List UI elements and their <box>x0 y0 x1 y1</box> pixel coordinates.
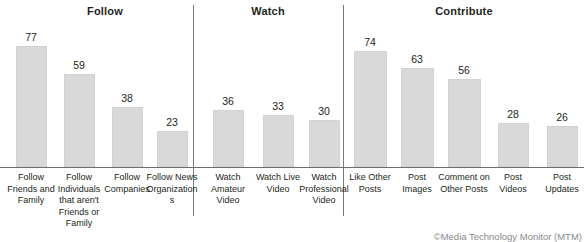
category-label-follow-news-organizations: Follow News Organizations <box>146 172 198 207</box>
value-label-watch-live-video: 33 <box>272 100 284 112</box>
bar-like-other-posts <box>354 51 387 167</box>
bar-follow-individuals <box>64 74 95 167</box>
bar-post-updates <box>547 126 578 167</box>
value-label-follow-friends-and-family: 77 <box>25 31 37 43</box>
value-label-follow-individuals: 59 <box>73 59 85 71</box>
category-label-watch-amateur-video: Watch Amateur Video <box>204 172 252 207</box>
bar-follow-companies <box>112 107 143 167</box>
section-title-follow: Follow <box>87 5 123 17</box>
value-label-post-updates: 26 <box>556 111 568 123</box>
value-label-watch-professional-video: 30 <box>318 105 330 117</box>
value-label-watch-amateur-video: 36 <box>222 95 234 107</box>
category-label-post-images: Post Images <box>396 172 438 195</box>
bar-post-images <box>401 68 434 167</box>
category-label-comment-on-other-posts: Comment on Other Posts <box>436 172 492 195</box>
bar-follow-friends-and-family <box>16 46 47 167</box>
source-watermark: ©Media Technology Monitor (MTM) <box>434 231 582 242</box>
bar-chart: Follow Watch Contribute 77Follow Friends… <box>0 0 584 242</box>
category-label-post-updates: Post Updates <box>539 172 584 195</box>
value-label-post-images: 63 <box>411 53 423 65</box>
section-title-watch: Watch <box>251 5 285 17</box>
category-label-like-other-posts: Like Other Posts <box>342 172 398 195</box>
bar-post-videos <box>498 123 529 167</box>
section-title-contribute: Contribute <box>435 5 493 17</box>
bar-comment-on-other-posts <box>448 79 481 167</box>
bar-watch-amateur-video <box>213 110 244 167</box>
bar-watch-professional-video <box>309 120 340 167</box>
value-label-follow-news-organizations: 23 <box>166 116 178 128</box>
value-label-comment-on-other-posts: 56 <box>458 64 470 76</box>
category-label-post-videos: Post Videos <box>492 172 534 195</box>
category-label-follow-friends-and-family: Follow Friends and Family <box>7 172 55 207</box>
category-label-follow-individuals: Follow Individuals that aren't Friends o… <box>50 172 108 230</box>
value-label-like-other-posts: 74 <box>364 36 376 48</box>
value-label-post-videos: 28 <box>507 108 519 120</box>
bar-watch-live-video <box>263 115 294 167</box>
bar-follow-news-organizations <box>157 131 188 167</box>
value-label-follow-companies: 38 <box>121 92 133 104</box>
category-label-follow-companies: Follow Companies <box>103 172 151 195</box>
category-axis-line <box>0 167 584 168</box>
